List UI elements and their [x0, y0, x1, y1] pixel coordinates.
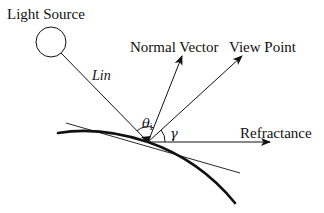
light-source-label: Light Source — [7, 7, 85, 22]
view-point-label: View Point — [229, 40, 296, 55]
view-angle-arc — [161, 130, 165, 142]
incidence-angle-symbol: θ — [142, 116, 150, 131]
incident-ray-label: Lin — [92, 69, 111, 83]
reflection-diagram: Light Source Lin Normal Vector View Poin… — [0, 0, 324, 213]
view-point-arrow — [148, 56, 242, 142]
light-source-circle — [36, 27, 66, 57]
refractance-label: Refractance — [240, 126, 312, 141]
view-angle-label: γ — [170, 127, 178, 140]
incidence-angle-label: θi — [142, 117, 153, 132]
incidence-angle-subscript: i — [150, 122, 153, 132]
incident-ray-line — [61, 53, 148, 142]
diagram-graphics — [0, 0, 324, 213]
normal-vector-label: Normal Vector — [130, 40, 218, 55]
